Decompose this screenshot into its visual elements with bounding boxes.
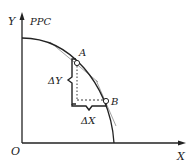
delta-x-bracket: [72, 103, 106, 110]
delta-y-bracket: [68, 59, 76, 104]
delta-y-label: ΔY: [47, 75, 63, 86]
x-axis-label: X: [176, 150, 186, 163]
x-axis-arrow-icon: [178, 141, 186, 146]
y-axis-label: Y: [8, 15, 17, 28]
ppc-diagram: Y PPC A B ΔY ΔX O X: [0, 0, 194, 166]
origin-label: O: [11, 145, 20, 158]
ppc-label: PPC: [29, 16, 51, 27]
point-b-label: B: [110, 96, 118, 107]
point-a-marker: [74, 60, 79, 65]
y-axis-arrow-icon: [20, 12, 25, 20]
axes: [20, 12, 187, 146]
point-b-marker: [103, 98, 108, 103]
delta-x-label: ΔX: [80, 115, 96, 126]
point-a-label: A: [78, 47, 86, 58]
